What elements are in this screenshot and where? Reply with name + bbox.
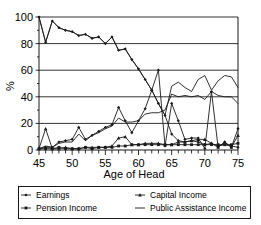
data-series-group [37, 15, 240, 150]
chart-figure: 45505560657075 020406080100 Age of Head … [0, 0, 261, 225]
data-point-marker [223, 143, 226, 146]
data-point-marker [236, 134, 240, 137]
chart-legend: EarningsCapital IncomePension IncomePubl… [19, 187, 251, 219]
y-tick-label: 100 [15, 11, 33, 23]
data-point-marker [183, 138, 186, 141]
x-tick-label: 65 [166, 157, 178, 169]
chart-canvas: 45505560657075 020406080100 Age of Head … [0, 0, 261, 225]
y-axis-tick-labels: 020406080100 [15, 11, 33, 156]
series-earnings [37, 15, 239, 149]
x-axis-ticks [39, 150, 238, 155]
x-axis-title: Age of Head [103, 168, 164, 180]
x-tick-label: 75 [232, 157, 244, 169]
data-point-marker [44, 127, 48, 130]
series-earnings-secondary [37, 69, 239, 151]
data-point-marker [157, 69, 160, 72]
y-tick-label: 20 [21, 117, 33, 129]
data-point-marker [177, 119, 180, 122]
series-path [39, 17, 238, 115]
data-point-marker [124, 145, 127, 148]
data-point-marker [236, 146, 239, 149]
data-point-marker [237, 142, 240, 145]
legend-label: Pension Income [36, 203, 97, 213]
y-tick-label: 40 [21, 91, 33, 103]
legend-label: Earnings [36, 190, 70, 200]
legend-item-public-assistance-income[interactable]: Public Assistance Income [135, 203, 247, 213]
x-tick-label: 70 [199, 157, 211, 169]
legend-label: Capital Income [150, 190, 207, 200]
data-point-marker [236, 127, 239, 130]
series-capital-income [37, 127, 240, 150]
data-point-marker [190, 143, 193, 146]
series-public-assistance-upper [39, 17, 238, 115]
data-point-marker [170, 102, 173, 105]
legend-label: Public Assistance Income [150, 203, 247, 213]
x-tick-label: 45 [33, 157, 45, 169]
data-point-marker [184, 143, 187, 146]
x-tick-label: 50 [66, 157, 78, 169]
y-tick-label: 60 [21, 64, 33, 76]
y-tick-label: 0 [27, 144, 33, 156]
y-axis-title: % [4, 81, 16, 91]
data-point-marker [117, 145, 120, 148]
data-point-marker [197, 140, 200, 143]
data-point-marker [177, 143, 180, 146]
y-tick-label: 80 [21, 38, 33, 50]
y-axis-ticks [36, 17, 40, 150]
legend-marker-icon [25, 207, 28, 210]
data-point-marker [117, 106, 120, 109]
data-point-marker [190, 136, 193, 139]
data-point-marker [197, 143, 200, 146]
